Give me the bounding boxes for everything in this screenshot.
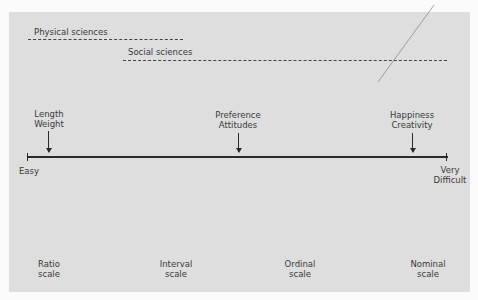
example-line1: Preference (215, 110, 261, 120)
axis-start-label: Easy (19, 166, 39, 176)
axis-end-line2: Difficult (434, 175, 467, 185)
scale-ratio: Ratio scale (38, 259, 60, 279)
difficulty-axis (28, 156, 448, 158)
axis-end-label: Very Difficult (434, 165, 467, 185)
scale-ordinal: Ordinal scale (285, 259, 316, 279)
scale-line2: scale (285, 269, 316, 279)
example-preference-attitudes: Preference Attitudes (215, 110, 261, 130)
arrow-down-icon (48, 131, 49, 152)
arrow-down-icon (238, 133, 239, 152)
scale-line2: scale (410, 269, 445, 279)
scale-interval: Interval scale (160, 259, 193, 279)
axis-end-tick (446, 153, 447, 161)
scale-line2: scale (160, 269, 193, 279)
axis-start-tick (27, 153, 28, 161)
physical-sciences-label: Physical sciences (34, 27, 108, 37)
example-line2: Weight (34, 119, 64, 129)
axis-end-line1: Very (434, 165, 467, 175)
scale-line1: Ordinal (285, 259, 316, 269)
social-sciences-range (123, 60, 447, 61)
scale-line2: scale (38, 269, 60, 279)
arrow-down-icon (412, 133, 413, 152)
scale-line1: Nominal (410, 259, 445, 269)
scale-line1: Interval (160, 259, 193, 269)
social-sciences-label: Social sciences (128, 47, 192, 57)
example-length-weight: Length Weight (34, 109, 64, 129)
scale-line1: Ratio (38, 259, 60, 269)
example-line1: Happiness (390, 110, 434, 120)
example-line2: Attitudes (215, 120, 261, 130)
example-line1: Length (34, 109, 64, 119)
example-line2: Creativity (390, 120, 434, 130)
example-happiness-creativity: Happiness Creativity (390, 110, 434, 130)
physical-sciences-range (28, 39, 183, 40)
scale-nominal: Nominal scale (410, 259, 445, 279)
